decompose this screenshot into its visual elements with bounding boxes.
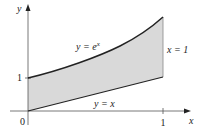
curve-exp-label-exponent: x xyxy=(96,40,101,48)
boundary-x-1-label: x = 1 xyxy=(166,44,188,55)
origin-label: 0 xyxy=(20,116,25,127)
curve-exp-label: y = ex xyxy=(75,40,101,52)
curve-exp-label-base: y = e xyxy=(75,41,97,52)
y-tick-label-1: 1 xyxy=(17,72,22,83)
y-axis-label: y xyxy=(16,3,22,14)
shaded-region xyxy=(28,17,163,111)
x-axis-arrow-icon xyxy=(184,109,191,114)
line-y-equals-x-label: y = x xyxy=(93,98,115,109)
x-axis-label: x xyxy=(188,115,194,126)
y-axis-arrow-icon xyxy=(26,4,31,11)
region-diagram: y x 0 1 1 y = ex y = x x = 1 xyxy=(0,0,200,129)
x-tick-label-1: 1 xyxy=(161,117,166,128)
